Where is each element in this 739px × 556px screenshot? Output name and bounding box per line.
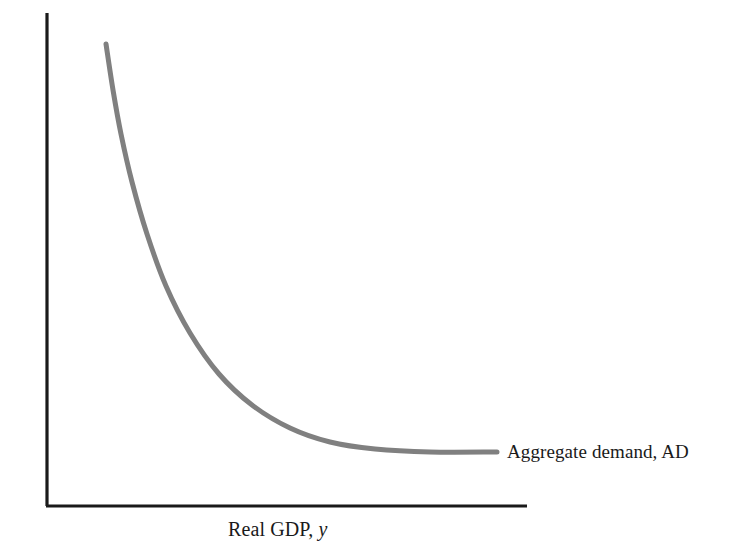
y-axis-label: Price level, P bbox=[0, 239, 103, 273]
aggregate-demand-figure: Price level, P Real GDP, y Aggregate dem… bbox=[0, 0, 739, 556]
chart-canvas bbox=[0, 0, 739, 556]
x-axis-label-text: Real GDP, bbox=[228, 518, 318, 540]
curve-label: Aggregate demand, AD bbox=[507, 441, 689, 463]
x-axis-label-symbol: y bbox=[318, 518, 327, 540]
x-axis-label: Real GDP, y bbox=[228, 518, 327, 541]
aggregate-demand-curve bbox=[106, 44, 497, 452]
